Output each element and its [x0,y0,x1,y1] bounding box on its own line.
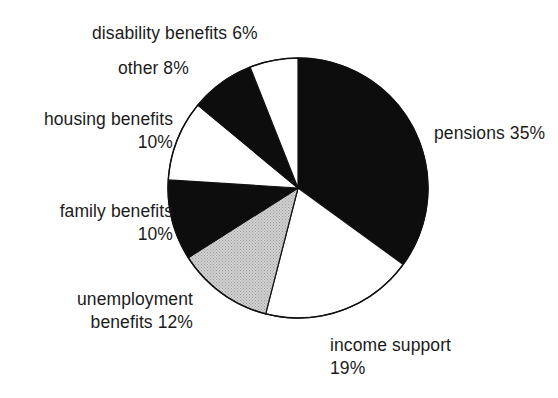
pie-slice-group [168,58,428,318]
slice-label-disability-benefits: disability benefits 6% [92,22,307,45]
slice-label-pensions: pensions 35% [434,122,558,145]
slice-label-unemployment-benefits: unemployment benefits 12% [48,288,193,334]
slice-label-other: other 8% [118,57,278,80]
pie-chart-figure: disability benefits 6% other 8% housing … [0,0,558,398]
slice-label-housing-benefits: housing benefits 10% [10,108,173,154]
slice-label-family-benefits: family benefits 10% [22,200,173,246]
slice-label-income-support: income support 19% [330,334,510,380]
